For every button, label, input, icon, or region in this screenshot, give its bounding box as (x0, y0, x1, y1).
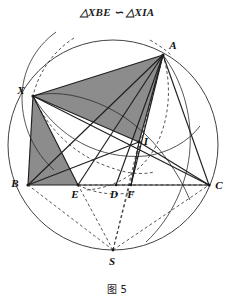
point-C (207, 183, 210, 186)
label-point-D: D (109, 188, 118, 200)
geometry-figure: △XBE ∽ △XIA (0, 0, 234, 302)
segment-IC (139, 142, 209, 185)
label-point-A: A (168, 39, 176, 51)
figure-caption: 图 5 (0, 281, 234, 296)
label-point-E: E (70, 188, 78, 200)
label-point-I: I (143, 135, 149, 147)
point-A (161, 53, 164, 56)
point-I (138, 141, 141, 144)
point-D (115, 184, 117, 186)
label-point-F: F (126, 188, 135, 200)
point-F (130, 184, 132, 186)
segment-IF (131, 142, 139, 185)
label-point-X: X (16, 84, 25, 96)
label-point-S: S (109, 255, 115, 267)
point-E (77, 184, 80, 187)
similarity-statement: △XBE ∽ △XIA (0, 6, 234, 19)
point-B (26, 183, 29, 186)
point-S (112, 249, 115, 252)
label-point-B: B (10, 177, 18, 189)
dashed-segment-SE (78, 185, 113, 250)
label-point-C: C (215, 179, 223, 191)
point-X (31, 94, 34, 97)
geometry-diagram: A X B C E D F I S (0, 22, 234, 280)
arc-dashed-E-to-F-low (78, 185, 134, 194)
